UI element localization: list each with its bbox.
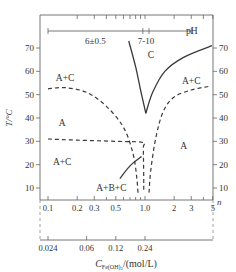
x-tick-label: 3 <box>189 203 193 213</box>
x-tick-label: 1.0 <box>140 203 151 213</box>
y-tick-label-right: 50 <box>219 90 229 100</box>
x-axis-label: n <box>217 197 222 207</box>
y-tick-label-right: 10 <box>219 183 229 193</box>
x-tick-label: 0.1 <box>43 203 54 213</box>
phase-diagram: 10102020303040405050606070700.10.20.30.5… <box>0 0 236 272</box>
y-tick-label-right: 20 <box>219 160 229 170</box>
y-tick-label-right: 40 <box>219 113 229 123</box>
y-axis-label: T/°C <box>4 108 14 126</box>
region-label: C <box>148 50 154 60</box>
x-tick-label: 2 <box>172 203 176 213</box>
y-tick-label-left: 10 <box>25 183 35 193</box>
region-label: A+C <box>53 157 72 167</box>
curve-c-boundary-left <box>129 41 146 113</box>
x-tick-label: 5 <box>211 203 215 213</box>
curve-a-c-a-boundary-left <box>48 88 138 195</box>
secondary-x-tick-label: 0.12 <box>108 243 123 253</box>
y-tick-label-right: 70 <box>219 43 229 53</box>
ph-range-label: 7-10 <box>138 36 155 46</box>
y-tick-label-left: 60 <box>25 66 35 76</box>
y-tick-label-left: 70 <box>25 43 35 53</box>
region-label: A <box>59 118 66 128</box>
curve-a-b-c-boundary <box>120 157 142 179</box>
y-tick-label-left: 40 <box>25 113 35 123</box>
secondary-x-axis-label: CFe(OH)2/(mol/L) <box>95 258 157 271</box>
y-tick-label-left: 20 <box>25 160 35 170</box>
y-tick-label-left: 50 <box>25 90 35 100</box>
y-tick-label-left: 30 <box>25 136 35 146</box>
x-tick-label: 0.3 <box>89 203 100 213</box>
x-tick-label: 0.2 <box>72 203 83 213</box>
secondary-x-tick-label: 0.24 <box>138 243 154 253</box>
region-label: A+C <box>56 73 75 83</box>
ph-range-label: 6±0.5 <box>85 36 106 46</box>
region-label: A <box>180 141 187 151</box>
ph-label: pH <box>186 26 198 36</box>
secondary-x-tick-label: 0.024 <box>38 243 58 253</box>
curve-c-boundary-right <box>146 46 212 114</box>
y-tick-label-right: 60 <box>219 66 229 76</box>
region-label: A+B+C <box>96 183 126 193</box>
curve-a-c-a-boundary-right <box>149 87 208 193</box>
secondary-x-tick-label: 0.06 <box>79 243 94 253</box>
region-label: A+C <box>182 76 201 86</box>
x-tick-label: 0.5 <box>110 203 121 213</box>
y-tick-label-right: 30 <box>219 136 229 146</box>
